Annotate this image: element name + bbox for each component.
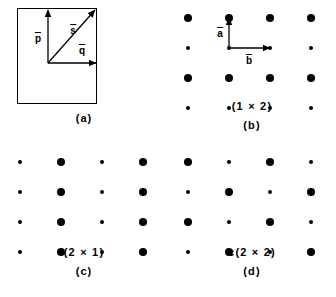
panel-b-lattice-dot <box>184 74 192 82</box>
panel-c-lattice-dot <box>57 188 65 196</box>
panel-c-lattice-dot <box>18 190 22 194</box>
panel-b-lattice-dot <box>266 14 274 22</box>
panel-c-caption-letter: (c) <box>0 265 168 277</box>
panel-d-lattice-dot <box>225 188 233 196</box>
panel-d-lattice-dot <box>309 220 313 224</box>
panel-b-caption-letter: (b) <box>168 119 336 131</box>
panel-d-lattice-dot <box>266 218 274 226</box>
panel-d-lattice-dot <box>184 218 192 226</box>
panel-d-lattice-dot <box>227 220 231 224</box>
panel-b-lattice-dot <box>309 46 313 50</box>
panel-b: ab (1 × 2) (b) <box>168 0 336 148</box>
panel-c-lattice-dot <box>139 188 147 196</box>
panel-c-lattice-dot <box>18 220 22 224</box>
panel-c-lattice-dot <box>57 158 65 166</box>
panel-c-lattice-dot <box>100 190 104 194</box>
panel-b-vector-label-a: a <box>217 27 223 39</box>
panel-c-lattice-dot <box>100 160 104 164</box>
panel-b-lattice-dot <box>225 74 233 82</box>
panel-d-caption-letter: (d) <box>168 265 336 277</box>
unit-mesh-vector-label-q: q <box>79 44 85 56</box>
unit-mesh-vector-label-p: p <box>35 32 41 44</box>
panel-d-lattice-dot <box>184 158 192 166</box>
panel-c-lattice-dot <box>139 218 147 226</box>
panel-c-lattice-dot <box>100 220 104 224</box>
panel-c-lattice-dot <box>18 160 22 164</box>
panel-b-lattice-dot <box>266 74 274 82</box>
panel-b-vector-label-b: b <box>246 54 252 66</box>
panel-b-lattice-dot <box>184 14 192 22</box>
unit-mesh-vector-arrows <box>0 0 168 120</box>
figure-root: psq (a) ab (1 × 2) (b) (2 × 1) (c) c(2 ×… <box>0 0 336 297</box>
panel-d-lattice-dot <box>186 190 190 194</box>
panel-d-lattice-dot <box>227 160 231 164</box>
panel-c-caption-notation: (2 × 1) <box>0 246 168 258</box>
panel-b-lattice-dot <box>227 46 231 50</box>
panel-d-lattice-dot <box>307 188 315 196</box>
panel-a-caption-letter: (a) <box>0 112 168 124</box>
panel-c-lattice-dot <box>139 158 147 166</box>
panel-b-lattice-dot <box>225 14 233 22</box>
panel-d-lattice-dot <box>268 190 272 194</box>
panel-d: c(2 × 2) (d) <box>168 149 336 297</box>
panel-a: psq (a) <box>0 0 168 148</box>
unit-mesh-vector-label-s: s <box>70 24 76 36</box>
panel-c: (2 × 1) (c) <box>0 149 168 297</box>
unit-mesh-vector-s <box>48 10 95 63</box>
panel-c-lattice-dot <box>57 218 65 226</box>
panel-b-lattice-dot <box>268 46 272 50</box>
panel-b-caption-notation: (1 × 2) <box>168 100 336 112</box>
panel-b-lattice-dot <box>186 46 190 50</box>
panel-d-lattice-dot <box>266 158 274 166</box>
panel-a-stage: psq <box>0 0 168 148</box>
panel-b-lattice-dot <box>307 74 315 82</box>
panel-d-lattice-dot <box>309 160 313 164</box>
panel-b-lattice-dot <box>307 14 315 22</box>
panel-d-caption-notation: c(2 × 2) <box>168 246 336 258</box>
